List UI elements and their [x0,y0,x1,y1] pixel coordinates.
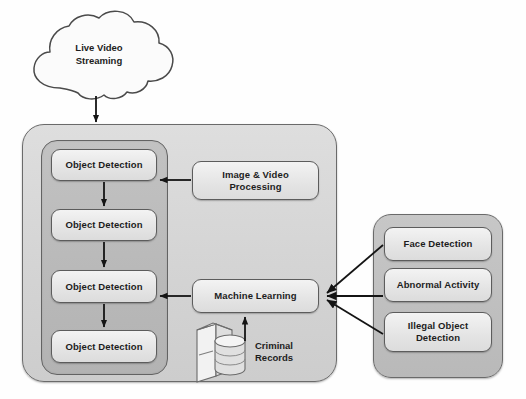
criminal-records-line1: Criminal [255,340,293,351]
image-video-processing-box[interactable]: Image & Video Processing [192,161,319,200]
criminal-records-label: Criminal Records [246,340,302,365]
cloud-label: Live Video Streaming [60,42,138,68]
object-detection-box-2-label: Object Detection [61,219,146,231]
abnormal-activity-label: Abnormal Activity [393,279,484,291]
illegal-object-detection-line1: Illegal Object [404,320,473,332]
object-detection-box-3[interactable]: Object Detection [51,270,157,303]
object-detection-box-1-label: Object Detection [61,159,146,171]
object-detection-box-3-label: Object Detection [61,281,146,293]
illegal-object-detection-box[interactable]: Illegal Object Detection [384,312,492,352]
object-detection-box-4[interactable]: Object Detection [51,330,157,363]
image-video-processing-line1: Image & Video [218,169,293,181]
abnormal-activity-box[interactable]: Abnormal Activity [384,268,492,302]
object-detection-box-4-label: Object Detection [61,341,146,353]
illegal-object-detection-line2: Detection [412,332,464,344]
machine-learning-box[interactable]: Machine Learning [192,279,319,313]
face-detection-label: Face Detection [400,238,477,250]
face-detection-box[interactable]: Face Detection [384,227,492,261]
cloud-label-line1: Live Video [75,42,122,53]
criminal-records-line2: Records [255,352,293,363]
object-detection-box-2[interactable]: Object Detection [51,209,157,241]
image-video-processing-line2: Processing [225,181,285,193]
machine-learning-label: Machine Learning [210,290,300,302]
object-detection-box-1[interactable]: Object Detection [51,149,157,181]
cloud-label-line2: Streaming [76,55,122,66]
diagram-canvas: Live Video Streaming Object Detection Ob… [0,0,526,399]
